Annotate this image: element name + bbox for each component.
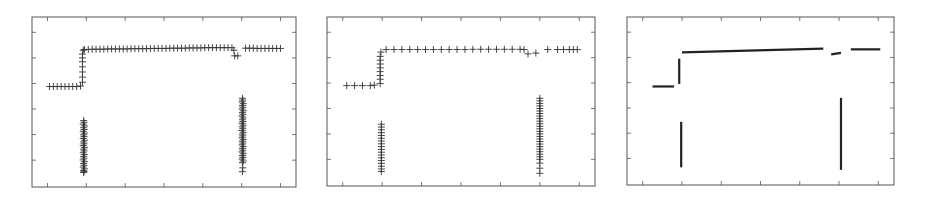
- plot-frame: [32, 17, 296, 187]
- series-vertical-cluster-2: [536, 95, 543, 177]
- axis-ticks: [32, 17, 296, 187]
- line-plot-3: [616, 0, 925, 201]
- plot-frame: [627, 17, 894, 185]
- series-high-line: [81, 44, 236, 53]
- plot-panel-2: [308, 0, 616, 201]
- scatter-plot-1: [0, 0, 308, 201]
- plot-panel-3: [616, 0, 925, 201]
- series-high-line: [377, 46, 527, 56]
- series-dip: [831, 53, 841, 55]
- plot-frame: [327, 17, 595, 186]
- series-rise: [377, 53, 384, 87]
- series-high-line-right: [242, 45, 284, 52]
- series-low-step: [343, 82, 378, 90]
- series-vertical-cluster-2: [239, 95, 247, 175]
- scatter-plot-2: [308, 0, 616, 201]
- series-vertical-cluster-1: [80, 117, 88, 176]
- series-vertical-cluster-1: [378, 121, 385, 175]
- series-dip: [525, 50, 540, 58]
- plot-panel-1: [0, 0, 308, 201]
- axis-ticks: [327, 17, 595, 186]
- series-rise: [79, 47, 87, 86]
- series-high-line: [682, 49, 823, 53]
- axis-ticks: [627, 17, 894, 185]
- series-high-line-right: [544, 46, 581, 53]
- series-low-step: [46, 83, 84, 91]
